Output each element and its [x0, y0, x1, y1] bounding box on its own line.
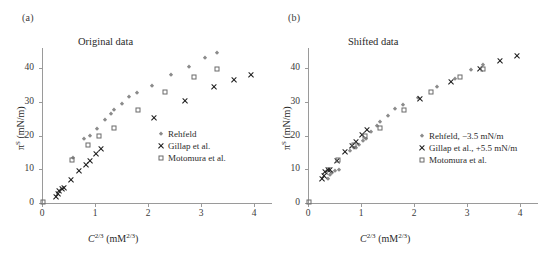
- data-point: [215, 51, 220, 56]
- figure-root: (a) Original data πS (mN/m) C2/3 (mM2/3)…: [0, 0, 552, 260]
- y-tick-label: 0: [274, 197, 300, 207]
- data-point: [417, 96, 423, 102]
- data-point: [351, 143, 356, 148]
- data-point: [76, 168, 82, 174]
- data-point: [401, 108, 406, 113]
- data-point: [98, 146, 104, 152]
- panel-b-legend: Rehfeld, −3.5 mN/mGillap et al., +5.5 mN…: [416, 130, 517, 166]
- data-point: [187, 65, 192, 70]
- x-tick-label: 4: [239, 208, 269, 218]
- y-tick-label: 30: [274, 96, 300, 106]
- legend-label: Gillap et al.: [168, 141, 210, 151]
- y-tick-mark: [39, 136, 42, 137]
- legend-item: Motomura et al.: [155, 152, 226, 164]
- data-point: [385, 113, 390, 118]
- legend-marker-icon: [155, 128, 167, 140]
- data-point: [94, 127, 99, 132]
- panel-a-legend: RehfeldGillap et al.Motomura et al.: [155, 128, 226, 164]
- x-tick-label: 1: [346, 208, 376, 218]
- data-point: [514, 53, 520, 59]
- data-point: [111, 125, 116, 130]
- data-point: [448, 79, 454, 85]
- y-tick-label: 40: [274, 62, 300, 72]
- data-point: [435, 84, 440, 89]
- legend-marker-glyph: [159, 132, 164, 137]
- x-tick-label: 2: [399, 208, 429, 218]
- data-point: [378, 120, 383, 125]
- x-tick-mark: [148, 204, 149, 207]
- legend-marker-icon: [155, 152, 167, 164]
- data-point: [109, 112, 114, 117]
- legend-label: Gillap et al., +5.5 mN/m: [429, 143, 517, 153]
- data-point: [327, 167, 333, 173]
- y-tick-mark: [305, 102, 308, 103]
- legend-label: Motomura et al.: [429, 155, 487, 165]
- data-point: [85, 143, 90, 148]
- x-tick-mark: [201, 204, 202, 207]
- data-point: [119, 102, 124, 107]
- data-point: [307, 200, 312, 205]
- x-tick-label: 0: [293, 208, 323, 218]
- data-point: [102, 117, 107, 122]
- panel-a-plot-area: 01234010203040: [0, 0, 276, 260]
- legend-item: Motomura et al.: [416, 154, 517, 166]
- y-tick-label: 0: [8, 197, 34, 207]
- y-axis-line: [308, 48, 309, 205]
- x-tick-mark: [361, 204, 362, 207]
- y-axis-line: [42, 48, 43, 205]
- data-point: [87, 158, 93, 164]
- y-tick-label: 40: [8, 62, 34, 72]
- x-tick-label: 1: [80, 208, 110, 218]
- data-point: [97, 133, 102, 138]
- legend-marker-icon: [155, 140, 167, 152]
- data-point: [342, 149, 348, 155]
- legend-marker-icon: [416, 142, 428, 154]
- data-point: [336, 168, 341, 173]
- data-point: [231, 77, 237, 83]
- data-point: [336, 158, 341, 163]
- y-tick-mark: [39, 102, 42, 103]
- y-tick-label: 20: [8, 130, 34, 140]
- x-tick-label: 0: [27, 208, 57, 218]
- x-tick-mark: [254, 204, 255, 207]
- data-point: [61, 185, 67, 191]
- data-point: [393, 107, 398, 112]
- data-point: [363, 133, 368, 138]
- y-tick-label: 30: [8, 96, 34, 106]
- data-point: [203, 56, 208, 61]
- data-point: [68, 177, 74, 183]
- data-point: [151, 115, 157, 121]
- y-tick-label: 20: [274, 130, 300, 140]
- panel-a: (a) Original data πS (mN/m) C2/3 (mM2/3)…: [0, 0, 276, 260]
- data-point: [497, 58, 503, 64]
- data-point: [169, 73, 174, 78]
- legend-marker-icon: [416, 154, 428, 166]
- data-point: [457, 75, 462, 80]
- legend-marker-glyph: [419, 145, 425, 151]
- data-point: [428, 90, 433, 95]
- x-tick-mark: [467, 204, 468, 207]
- data-point: [70, 158, 75, 163]
- legend-item: Gillap et al., +5.5 mN/m: [416, 142, 517, 154]
- y-tick-label: 10: [8, 163, 34, 173]
- data-point: [401, 102, 406, 107]
- panel-b: (b) Shifted data πS (mN/m) C2/3 (mM2/3) …: [276, 0, 552, 260]
- data-point: [81, 137, 86, 142]
- data-point: [211, 84, 217, 90]
- data-point: [182, 98, 188, 104]
- data-point: [214, 66, 219, 71]
- y-tick-mark: [39, 68, 42, 69]
- x-tick-label: 4: [505, 208, 535, 218]
- y-tick-label: 10: [274, 163, 300, 173]
- data-point: [135, 108, 140, 113]
- legend-label: Rehfeld, −3.5 mN/m: [429, 131, 504, 141]
- legend-item: Rehfeld, −3.5 mN/m: [416, 130, 517, 142]
- x-tick-mark: [414, 204, 415, 207]
- data-point: [127, 95, 132, 100]
- data-point: [480, 66, 485, 71]
- legend-marker-glyph: [159, 156, 164, 161]
- x-tick-label: 3: [452, 208, 482, 218]
- legend-label: Motomura et al.: [168, 153, 226, 163]
- y-tick-mark: [305, 169, 308, 170]
- data-point: [377, 125, 382, 130]
